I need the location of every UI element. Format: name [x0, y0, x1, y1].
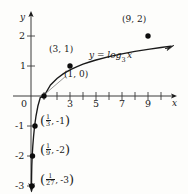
y-tick-label-neg2: -2: [15, 151, 24, 161]
yvalue-neg1: -1: [56, 117, 65, 126]
comma-1: ,: [51, 117, 54, 126]
yvalue-neg2: -2: [56, 146, 65, 155]
comma-2: ,: [51, 146, 54, 155]
x-tick-label-0: 0: [21, 99, 27, 109]
fraction-1-27: 127: [46, 173, 55, 188]
paren-open-1: (: [40, 114, 45, 127]
x-axis-label: x: [172, 99, 177, 108]
paren-close-1: ): [65, 114, 70, 127]
paren-open-3: (: [40, 173, 45, 186]
x-tick-label-9: 9: [145, 99, 151, 109]
y-tick-label-1: 1: [20, 61, 26, 71]
fraction-1-9: 19: [46, 143, 51, 158]
fraction-1-3: 13: [46, 114, 51, 129]
point-3-1: [67, 63, 72, 68]
graph-canvas: [0, 0, 188, 194]
logarithm-graph-figure: y x 2 1 -1 -2 -3 0 3 5 7 9 (9, 2) (3, 1)…: [0, 0, 188, 194]
point-label-1third-neg1: (13,-1): [40, 114, 70, 129]
comma-3: ,: [55, 176, 58, 185]
leader-line-1-0: [45, 76, 66, 94]
point-1-0: [41, 93, 46, 98]
y-tick-label-neg3: -3: [15, 181, 24, 191]
point-9-2: [145, 33, 150, 38]
paren-close-3: ): [69, 173, 74, 186]
yvalue-neg3: -3: [60, 176, 69, 185]
curve-equation-base: 3: [121, 56, 125, 64]
x-tick-label-7: 7: [119, 99, 125, 109]
point-1third-neg1: [32, 123, 37, 128]
point-1ninth-neg2: [30, 153, 35, 158]
x-tick-label-5: 5: [93, 99, 99, 109]
y-tick-label-2: 2: [19, 31, 25, 41]
x-tick-label-3: 3: [67, 99, 73, 109]
point-1twentyseventh-neg3: [29, 183, 34, 188]
y-axis-label: y: [20, 13, 25, 22]
point-label-1-0: (1, 0): [64, 70, 88, 79]
point-label-1twentyseventh-neg3: (127,-3): [40, 173, 74, 188]
point-label-9-2: (9, 2): [122, 15, 146, 24]
curve-equation-label: y = log3x: [89, 51, 132, 62]
curve-equation-prefix: y = log: [89, 50, 121, 60]
point-label-3-1: (3, 1): [49, 45, 73, 54]
point-label-1ninth-neg2: (19,-2): [40, 143, 70, 158]
paren-open-2: (: [40, 143, 45, 156]
curve-equation-suffix: x: [127, 50, 132, 60]
paren-close-2: ): [65, 143, 70, 156]
y-tick-label-neg1: -1: [15, 121, 24, 131]
